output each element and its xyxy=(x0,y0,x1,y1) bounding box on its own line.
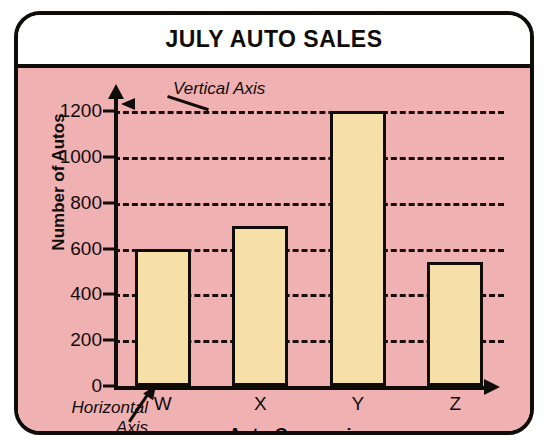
annotation-horizontal-axis: Horizontal Axis xyxy=(28,398,148,431)
x-axis-tick-label: W xyxy=(154,393,172,415)
y-axis-tick-mark xyxy=(103,110,114,113)
y-axis-tick-label: 200 xyxy=(70,329,102,351)
y-axis-line xyxy=(114,95,118,387)
y-axis-tick-mark xyxy=(103,155,114,158)
y-axis-tick-label: 1200 xyxy=(60,100,102,122)
y-axis-tick-mark xyxy=(103,339,114,342)
bar xyxy=(330,111,386,386)
y-axis-tick-label: 800 xyxy=(70,192,102,214)
y-axis-arrowhead xyxy=(108,84,124,99)
x-axis-tick-label: Z xyxy=(449,393,461,415)
x-axis-title: Auto Companies xyxy=(114,425,486,431)
y-axis-tick-mark xyxy=(103,247,114,250)
bar xyxy=(427,262,483,386)
gridline xyxy=(114,203,504,206)
x-axis-arrowhead xyxy=(484,379,500,395)
x-axis-tick-label: X xyxy=(254,393,267,415)
y-axis-tick-label: 600 xyxy=(70,238,102,260)
y-axis-tick-label: 1000 xyxy=(60,146,102,168)
y-axis-tick-mark xyxy=(103,201,114,204)
chart-figure: JULY AUTO SALES Number of Autos 02004006… xyxy=(14,11,534,435)
plot-area: 020040060080010001200 xyxy=(114,111,504,386)
plot-panel: Number of Autos 020040060080010001200 WX… xyxy=(18,64,530,431)
y-axis-tick-label: 0 xyxy=(91,375,102,397)
annotation-vertical-axis: Vertical Axis xyxy=(173,79,265,99)
gridline xyxy=(114,111,504,114)
y-axis-tick-mark xyxy=(103,385,114,388)
chart-title: JULY AUTO SALES xyxy=(165,26,382,53)
vertical-axis-leader-arrowhead xyxy=(121,98,135,110)
gridline xyxy=(114,157,504,160)
x-axis-tick-label: Y xyxy=(351,393,364,415)
y-axis-tick-mark xyxy=(103,293,114,296)
x-axis-line xyxy=(114,386,486,390)
bar xyxy=(135,249,191,387)
title-band: JULY AUTO SALES xyxy=(18,15,530,64)
bar xyxy=(232,226,288,386)
y-axis-tick-label: 400 xyxy=(70,283,102,305)
